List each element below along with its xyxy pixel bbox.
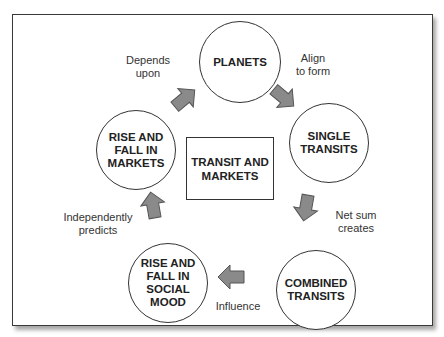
edge-label-align-to-form: Align to form bbox=[283, 52, 343, 78]
edge-label-net-sum-creates: Net sum creates bbox=[326, 209, 386, 235]
edge-label-depends-upon: Depends upon bbox=[115, 54, 181, 80]
arrow-depends-upon-icon bbox=[167, 81, 202, 116]
node-single-transits: SINGLE TRANSITS bbox=[289, 103, 369, 183]
arrow-influence-icon bbox=[218, 265, 244, 289]
center-box-transit-and-markets: TRANSIT AND MARKETS bbox=[186, 137, 274, 200]
arrow-net-sum-creates-icon bbox=[292, 193, 320, 223]
node-combined-transits: COMBINED TRANSITS bbox=[276, 250, 356, 330]
node-markets: RISE AND FALL IN MARKETS bbox=[96, 110, 176, 190]
arrow-independently-predicts-icon bbox=[139, 190, 167, 220]
node-planets: PLANETS bbox=[199, 21, 281, 103]
edge-label-independently-predicts: Independently predicts bbox=[58, 211, 138, 237]
node-social-mood: RISE AND FALL IN SOCIAL MOOD bbox=[128, 243, 208, 323]
edge-label-influence: Influence bbox=[208, 300, 268, 313]
